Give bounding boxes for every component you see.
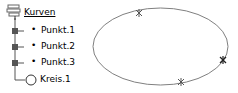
point-marker-punkt-1	[136, 9, 142, 17]
tree-item-punkt-1[interactable]: Punkt.1	[41, 25, 75, 36]
branch-node-icon[interactable]	[11, 43, 19, 51]
point-icon: •	[31, 56, 36, 67]
circle-icon	[25, 74, 37, 86]
circle-kreis-1	[93, 8, 228, 85]
branch-node-icon[interactable]	[11, 59, 19, 67]
tree-item-kreis-1[interactable]: Kreis.1	[40, 74, 71, 85]
point-marker-punkt-3	[178, 78, 184, 86]
point-icon: •	[31, 24, 36, 35]
curves-root-icon[interactable]	[6, 4, 22, 20]
tree-root-kurven[interactable]: Kurven	[24, 7, 55, 18]
specification-tree: Kurven • Punkt.1 • Punkt.2 • Punkt.3 Kre…	[0, 0, 90, 93]
tree-item-punkt-3[interactable]: Punkt.3	[41, 57, 75, 68]
point-marker-punkt-2	[220, 56, 226, 64]
branch-node-icon[interactable]	[11, 27, 19, 35]
tree-item-punkt-2[interactable]: Punkt.2	[41, 41, 75, 52]
point-icon: •	[31, 40, 36, 51]
